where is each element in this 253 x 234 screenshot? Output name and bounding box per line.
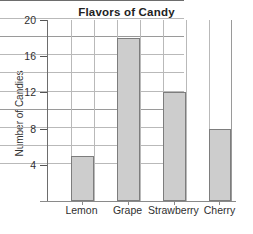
gridline-x-6 bbox=[186, 20, 187, 201]
y-tick-mark-20 bbox=[40, 20, 47, 21]
bar-grape bbox=[117, 38, 140, 201]
y-tick-mark-12 bbox=[40, 92, 47, 93]
bar-chart-figure: Flavors of Candy Number of Candies 20 16… bbox=[0, 0, 253, 234]
y-tick-label-12: 12 bbox=[10, 86, 36, 98]
y-tick-mark-16 bbox=[40, 56, 47, 57]
gridline-x-2 bbox=[94, 20, 95, 201]
gridline-x-8 bbox=[231, 20, 232, 201]
x-label-cherry: Cherry bbox=[192, 204, 247, 216]
x-axis-line bbox=[40, 201, 236, 202]
y-tick-label-20: 20 bbox=[10, 14, 36, 26]
bar-strawberry bbox=[163, 92, 186, 201]
bar-lemon bbox=[71, 156, 94, 201]
y-tick-mark-8 bbox=[40, 129, 47, 130]
y-tick-label-8: 8 bbox=[10, 123, 36, 135]
gridline-x-4 bbox=[140, 20, 141, 201]
plot-area bbox=[47, 20, 231, 201]
y-tick-mark-4 bbox=[40, 165, 47, 166]
bar-cherry bbox=[209, 129, 231, 201]
gridline-y-20 bbox=[0, 0, 184, 1]
y-tick-label-16: 16 bbox=[10, 50, 36, 62]
y-tick-label-4: 4 bbox=[10, 159, 36, 171]
chart-title: Flavors of Candy bbox=[0, 6, 253, 18]
